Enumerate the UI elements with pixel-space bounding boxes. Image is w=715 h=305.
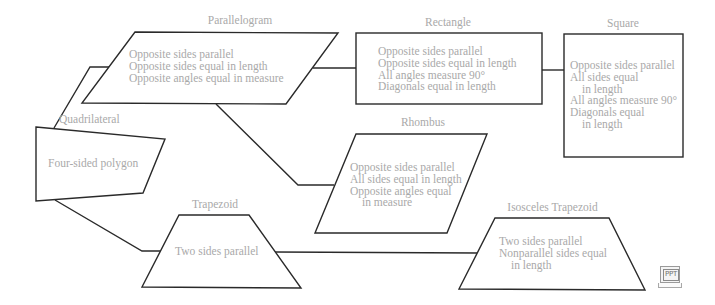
property-line: All sides equal in length — [350, 174, 462, 186]
parallelogram-properties: Opposite sides parallel Opposite sides e… — [129, 49, 284, 84]
property-line: in length — [570, 119, 677, 131]
quadrilateral-hierarchy-diagram: Parallelogram Opposite sides parallel Op… — [0, 0, 715, 305]
diagram-shapes — [0, 0, 715, 305]
rectangle-properties: Opposite sides parallel Opposite sides e… — [378, 46, 517, 93]
square-title: Square — [598, 17, 648, 29]
ppt-label: PPT — [663, 269, 679, 281]
parallelogram-title: Parallelogram — [195, 14, 285, 26]
rhombus-properties: Opposite sides parallel All sides equal … — [350, 162, 462, 209]
isosceles-trapezoid-properties: Two sides parallel Nonparallel sides equ… — [499, 236, 607, 271]
trapezoid-title: Trapezoid — [185, 198, 245, 210]
rectangle-title: Rectangle — [408, 16, 488, 28]
property-line: Two sides parallel — [175, 246, 259, 258]
connector-quadrilateral-trapezoid — [55, 200, 161, 251]
property-line: Opposite sides equal in length — [378, 58, 517, 70]
connector-trapezoid-isosceles-trapezoid — [275, 252, 477, 253]
square-properties: Opposite sides parallel All sides equal … — [570, 60, 677, 131]
rhombus-title: Rhombus — [398, 116, 448, 128]
property-line: All sides equal — [570, 72, 677, 84]
property-line: Opposite angles equal in measure — [129, 73, 284, 85]
property-line: Four-sided polygon — [48, 158, 138, 170]
quadrilateral-title: Quadrilateral — [59, 113, 131, 125]
property-line: Opposite sides equal in length — [129, 61, 284, 73]
ppt-base — [658, 283, 682, 288]
property-line: in measure — [350, 197, 462, 209]
property-line: Nonparallel sides equal — [499, 248, 607, 260]
connector-parallelogram-rhombus — [216, 104, 334, 185]
ppt-screen: PPT — [660, 266, 680, 283]
property-line: in length — [499, 260, 607, 272]
property-line: Diagonals equal in length — [378, 81, 517, 93]
isosceles-trapezoid-title: Isosceles Trapezoid — [500, 201, 605, 213]
ppt-laptop-icon: PPT — [659, 266, 683, 294]
quadrilateral-properties: Four-sided polygon — [48, 158, 138, 170]
trapezoid-properties: Two sides parallel — [175, 246, 259, 258]
